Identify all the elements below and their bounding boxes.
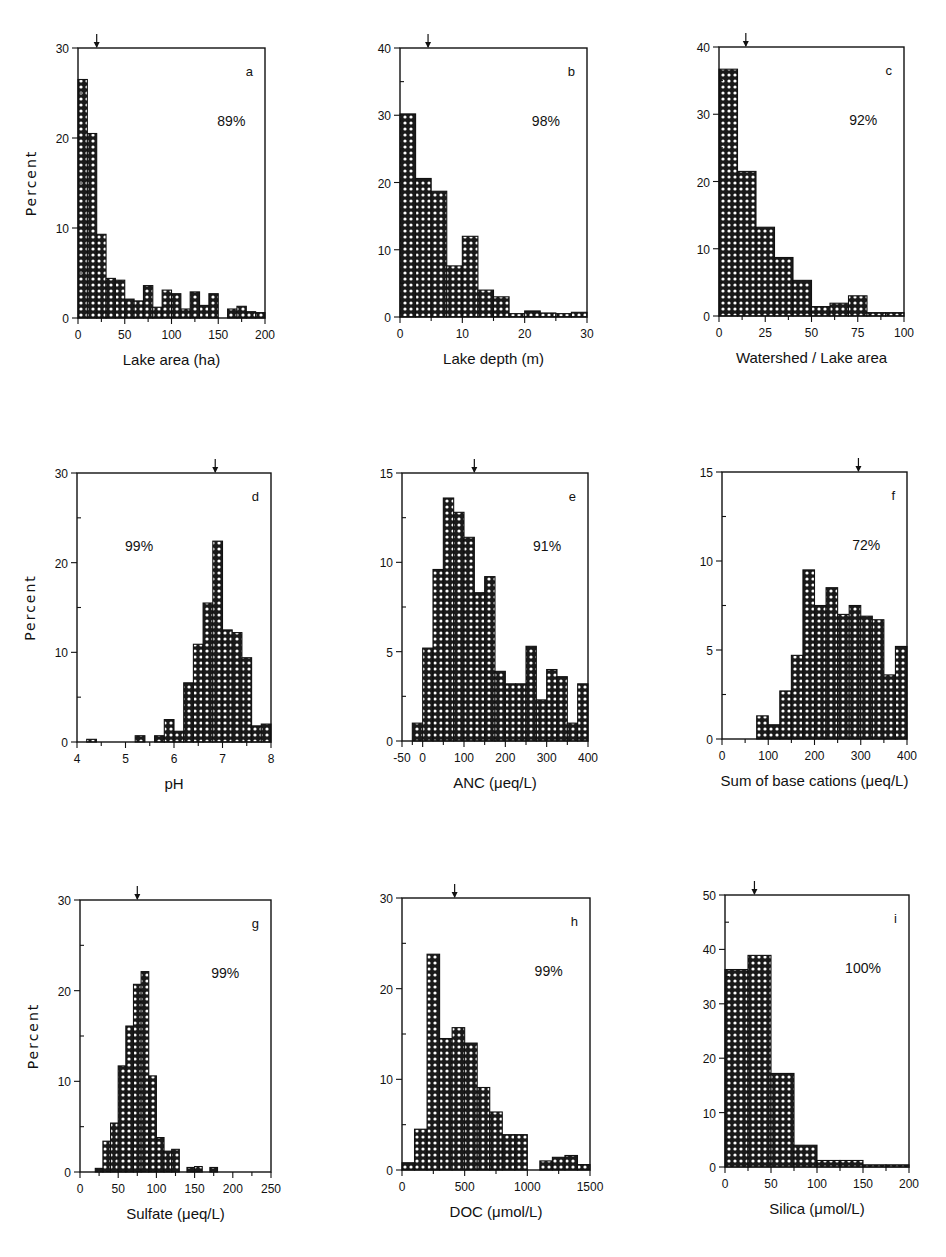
x-tick-label: 50 (764, 1177, 778, 1191)
bars (87, 541, 271, 742)
histogram-bar (172, 1149, 180, 1172)
y-tick-label: 20 (703, 1052, 717, 1066)
median-arrow-icon (94, 34, 100, 48)
histogram-bar (164, 1151, 172, 1172)
median-arrow-icon (751, 881, 757, 895)
histogram-bar (567, 723, 577, 741)
histogram-bar (565, 1155, 578, 1170)
histogram-bar (775, 257, 794, 316)
x-axis-label: pH (164, 775, 183, 792)
histogram-bar (477, 1087, 490, 1170)
x-tick-label: 1500 (577, 1180, 604, 1194)
x-tick-label: 0 (419, 751, 426, 765)
x-axis-label: Sum of base cations (μeq/L) (721, 772, 909, 789)
histogram-bar (423, 648, 433, 741)
x-tick-label: 500 (455, 1180, 475, 1194)
y-tick-label: 10 (697, 243, 711, 257)
histogram-bar (195, 1167, 203, 1172)
y-tick-label: 0 (62, 312, 69, 326)
histogram-bar (547, 670, 557, 741)
histogram-bar (223, 630, 233, 742)
histogram-bar (780, 691, 792, 739)
y-tick-label: 5 (386, 646, 393, 660)
histogram-bar (884, 675, 896, 739)
histogram-bar (181, 309, 190, 318)
bars (412, 498, 588, 741)
x-tick-label: 10 (456, 327, 470, 341)
histogram-bar (738, 171, 757, 316)
histogram-panel-f: 0510150100200300400Sum of base cations (… (700, 458, 918, 789)
histogram-bar (525, 311, 541, 317)
x-axis: 45678 (74, 742, 275, 766)
histogram-bar (237, 306, 246, 318)
histogram-bar (134, 301, 143, 318)
histogram-bar (757, 716, 769, 739)
panel-letter: i (894, 911, 897, 926)
panel-letter: a (246, 64, 254, 79)
x-axis-label: Lake area (ha) (123, 351, 221, 368)
y-tick-label: 20 (55, 557, 69, 571)
x-tick-label: 75 (851, 326, 865, 340)
histogram-bar (536, 700, 546, 741)
median-arrow-icon (855, 458, 861, 472)
x-tick-label: 400 (578, 751, 598, 765)
x-tick-label: 50 (112, 1182, 126, 1196)
histogram-bar (793, 280, 812, 316)
histogram-panel-c: 0102030400255075100Watershed / Lake area… (697, 33, 915, 366)
panel-letter: d (252, 489, 259, 504)
histogram-bar (133, 984, 141, 1172)
histogram-bar (193, 644, 203, 742)
y-tick-label: 0 (709, 1161, 716, 1175)
histogram-bar (557, 677, 567, 741)
coverage-percent-label: 100% (845, 960, 881, 976)
x-tick-label: 20 (518, 327, 532, 341)
histogram-bar (153, 307, 162, 318)
x-tick-label: 5 (122, 752, 129, 766)
y-tick-label: 30 (58, 894, 72, 908)
bars (719, 69, 904, 316)
coverage-percent-label: 99% (211, 965, 239, 981)
x-tick-label: 300 (851, 749, 871, 763)
histogram-bar (433, 569, 443, 741)
coverage-percent-label: 92% (849, 112, 877, 128)
histogram-bar (577, 1165, 590, 1170)
histogram-bar (861, 616, 873, 739)
histogram-panel-h: 0102030050010001500DOC (μmol/L)h99% (380, 884, 604, 1220)
panel-letter: c (886, 63, 893, 78)
x-tick-label: 0 (399, 1180, 406, 1194)
coverage-percent-label: 98% (532, 113, 560, 129)
histogram-bar (172, 294, 181, 318)
panel-letter: e (569, 489, 576, 504)
histogram-bar (126, 1026, 134, 1172)
x-axis: 050100150200 (722, 1167, 920, 1191)
x-tick-label: 150 (208, 328, 228, 342)
plot-frame (80, 900, 271, 1172)
histogram-bar (812, 307, 831, 316)
y-tick-label: 30 (380, 892, 394, 906)
histogram-bar (78, 80, 87, 319)
y-tick-label: 10 (55, 646, 69, 660)
histogram-bar (495, 671, 505, 741)
histogram-bar (400, 114, 416, 317)
histogram-bar (412, 723, 422, 741)
y-tick-label: 0 (61, 736, 68, 750)
histogram-bar (803, 570, 815, 739)
histogram-panel-a: 0102030050100150200Lake area (ha)Percent… (23, 34, 275, 368)
x-tick-label: 100 (807, 1177, 827, 1191)
y-tick-label: 20 (697, 176, 711, 190)
histogram-bar (571, 312, 587, 317)
coverage-percent-label: 72% (852, 537, 880, 553)
histogram-bar (502, 1135, 515, 1170)
histogram-bar (200, 305, 209, 318)
histogram-bar (515, 1135, 528, 1170)
coverage-percent-label: 91% (533, 538, 561, 554)
histogram-bar (830, 303, 849, 316)
histogram-bar (213, 541, 223, 742)
y-tick-label: 0 (703, 310, 710, 324)
x-tick-label: 0 (75, 328, 82, 342)
histogram-bar (443, 498, 453, 741)
x-axis: -500100200300400 (393, 741, 598, 765)
histogram-bar (540, 1161, 553, 1170)
y-tick-label: 40 (378, 42, 392, 56)
histogram-bar (402, 1163, 415, 1170)
